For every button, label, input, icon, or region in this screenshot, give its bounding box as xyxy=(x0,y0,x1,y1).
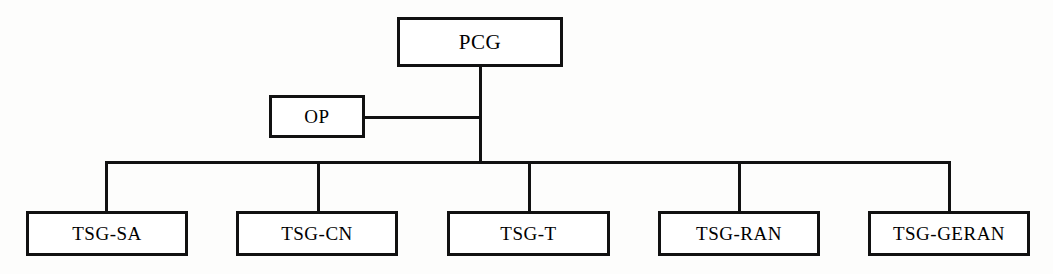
node-tsg-ran-label: TSG-RAN xyxy=(696,224,782,243)
connector-drop-tsg-t xyxy=(528,161,531,211)
org-chart-diagram: PCG OP TSG-SA TSG-CN TSG-T TSG-RAN TSG-G… xyxy=(0,0,1053,274)
node-tsg-cn[interactable]: TSG-CN xyxy=(236,211,398,256)
connector-pcg-to-trunk xyxy=(479,67,482,117)
node-tsg-t-label: TSG-T xyxy=(500,224,556,243)
connector-drop-tsg-ran xyxy=(738,161,741,211)
node-pcg[interactable]: PCG xyxy=(397,17,563,67)
node-tsg-sa[interactable]: TSG-SA xyxy=(26,211,188,256)
node-pcg-label: PCG xyxy=(459,32,501,53)
connector-drop-tsg-geran xyxy=(948,161,951,211)
node-op-label: OP xyxy=(304,107,329,126)
node-tsg-ran[interactable]: TSG-RAN xyxy=(658,211,820,256)
connector-trunk-to-bus xyxy=(479,116,482,164)
connector-drop-tsg-sa xyxy=(105,161,108,211)
connector-drop-tsg-cn xyxy=(317,161,320,211)
node-tsg-geran[interactable]: TSG-GERAN xyxy=(868,211,1030,256)
connector-op-to-trunk xyxy=(365,116,482,119)
node-tsg-t[interactable]: TSG-T xyxy=(447,211,610,256)
node-tsg-cn-label: TSG-CN xyxy=(281,224,353,243)
node-op[interactable]: OP xyxy=(269,95,365,138)
node-tsg-geran-label: TSG-GERAN xyxy=(893,224,1005,243)
node-tsg-sa-label: TSG-SA xyxy=(72,224,142,243)
